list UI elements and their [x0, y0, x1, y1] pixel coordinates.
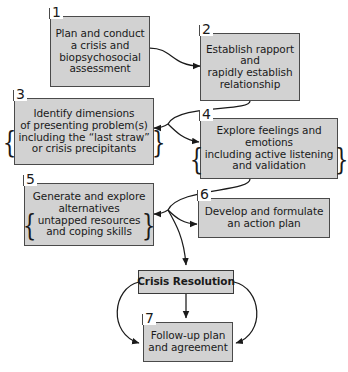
crisis-resolution-text: Crisis Resolution [139, 276, 233, 288]
step-5-line-2: alternatives [58, 203, 119, 215]
step-2-number-badge: 2 [199, 23, 213, 36]
step-1-line-2: a crisis and [71, 40, 130, 52]
step-5-notch [23, 175, 27, 186]
crisis-intervention-flow-diagram: 1 Plan and conduct a crisis and biopsych… [0, 0, 348, 372]
step-4-line-2: emotions [245, 137, 293, 149]
step-7-text: Follow-up plan and agreement [144, 330, 232, 354]
step-4-text: Explore feelings and emotions { includin… [201, 125, 337, 172]
step-6-number-badge: 6 [197, 188, 211, 201]
step-4-line-1: Explore feelings and [216, 125, 321, 137]
step-1-line-1: Plan and conduct [55, 28, 144, 40]
step-6-text: Develop and formulate an action plan [199, 206, 329, 230]
step-3-number-badge: 3 [13, 88, 27, 101]
step-1-text: Plan and conduct a crisis and biopsychos… [51, 28, 149, 75]
connector-junction-to-6 [168, 210, 197, 224]
step-4-number-badge: 4 [199, 108, 213, 121]
step-4-notch [199, 110, 203, 121]
step-5-line-1: Generate and explore [33, 191, 146, 203]
step-6-notch [197, 190, 201, 201]
connector-junction-to-5 [154, 210, 168, 214]
step-3-text: Identify dimensions of presenting proble… [15, 108, 153, 155]
crisis-resolution-label: Crisis Resolution [137, 276, 235, 288]
step-3-braced-group: { including the “last straw” or crisis p… [17, 132, 151, 156]
step-2-notch [199, 25, 203, 36]
step-5-braced-line-2: and coping skills [46, 226, 132, 238]
crisis-resolution-box[interactable]: Crisis Resolution [138, 270, 234, 294]
step-6-box[interactable]: 6 Develop and formulate an action plan [198, 198, 330, 238]
step-5-number-badge: 5 [23, 173, 37, 186]
step-1-number-badge: 1 [49, 6, 63, 19]
step-3-braced-line-2: or crisis precipitants [32, 143, 136, 155]
step-4-braced-group: { including active listening and validat… [203, 149, 335, 173]
step-6-line-2: an action plan [227, 218, 300, 230]
connector-resolution-loop-left [117, 282, 139, 343]
connector-junction-to-4 [168, 124, 199, 142]
step-3-notch [13, 90, 17, 101]
step-5-box[interactable]: 5 Generate and explore alternatives { un… [24, 183, 154, 246]
step-4-braced-line-2: and validation [232, 160, 305, 172]
step-2-line-3: rapidly establish [208, 67, 293, 79]
connector-6-to-resolution [168, 210, 186, 265]
step-7-box[interactable]: 7 Follow-up plan and agreement [143, 322, 233, 362]
connector-resolution-loop-right [234, 282, 257, 343]
step-3-line-2: of presenting problem(s) [20, 120, 148, 132]
step-7-number-badge: 7 [142, 312, 156, 325]
step-1-box[interactable]: 1 Plan and conduct a crisis and biopsych… [50, 16, 150, 87]
step-5-text: Generate and explore alternatives { unta… [25, 191, 153, 238]
step-1-line-4: assessment [69, 63, 130, 75]
step-4-box[interactable]: 4 Explore feelings and emotions { includ… [200, 118, 338, 179]
step-7-notch [142, 314, 146, 325]
step-3-line-1: Identify dimensions [34, 108, 135, 120]
step-1-notch [49, 8, 53, 19]
connector-1-to-2 [150, 48, 200, 66]
step-3-box[interactable]: 3 Identify dimensions of presenting prob… [14, 98, 154, 165]
step-5-braced-group: { untapped resources and coping skills } [27, 215, 151, 239]
step-2-box[interactable]: 2 Establish rapport and rapidly establis… [200, 33, 300, 101]
step-7-line-2: and agreement [148, 342, 227, 354]
step-2-line-4: relationship [220, 79, 281, 91]
step-2-text: Establish rapport and rapidly establish … [201, 44, 299, 91]
